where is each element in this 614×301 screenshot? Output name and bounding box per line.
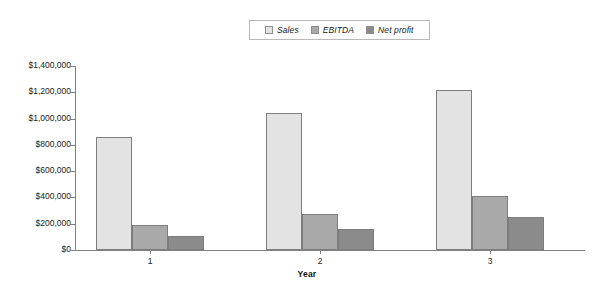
bar-chart: SalesEBITDANet profit $0$200,000$400,000… bbox=[0, 0, 614, 301]
x-tick-label: 2 bbox=[318, 256, 323, 266]
legend-item[interactable]: Sales bbox=[265, 25, 299, 35]
legend-item[interactable]: EBITDA bbox=[311, 25, 354, 35]
x-tick-label: 3 bbox=[488, 256, 493, 266]
y-tick-label: $200,000 bbox=[36, 218, 71, 228]
y-tick-label: $0 bbox=[62, 244, 71, 254]
bar[interactable] bbox=[436, 90, 472, 250]
x-tick-mark bbox=[150, 250, 151, 254]
y-tick-label: $1,200,000 bbox=[28, 86, 71, 96]
bar[interactable] bbox=[168, 236, 204, 250]
legend-label: EBITDA bbox=[323, 25, 354, 35]
x-tick-label: 1 bbox=[148, 256, 153, 266]
y-tick-label: $400,000 bbox=[36, 191, 71, 201]
bar-group bbox=[266, 66, 374, 250]
y-tick-label: $1,400,000 bbox=[28, 60, 71, 70]
x-axis-line bbox=[75, 250, 585, 251]
x-axis-title: Year bbox=[0, 269, 614, 279]
legend-label: Sales bbox=[277, 25, 299, 35]
x-tick-mark bbox=[490, 250, 491, 254]
plot-area bbox=[75, 66, 585, 250]
bar-group bbox=[96, 66, 204, 250]
bar[interactable] bbox=[302, 214, 338, 250]
legend-swatch-icon bbox=[311, 26, 319, 34]
chart-legend: SalesEBITDANet profit bbox=[249, 20, 430, 40]
y-tick-label: $600,000 bbox=[36, 165, 71, 175]
legend-item[interactable]: Net profit bbox=[366, 25, 414, 35]
legend-swatch-icon bbox=[265, 26, 273, 34]
bar-group bbox=[436, 66, 544, 250]
bar[interactable] bbox=[508, 217, 544, 251]
x-tick-mark bbox=[320, 250, 321, 254]
y-tick-label: $1,000,000 bbox=[28, 113, 71, 123]
y-tick-label: $800,000 bbox=[36, 139, 71, 149]
bar[interactable] bbox=[266, 113, 302, 250]
bar[interactable] bbox=[338, 229, 374, 250]
bar[interactable] bbox=[96, 137, 132, 250]
legend-swatch-icon bbox=[366, 26, 374, 34]
legend-label: Net profit bbox=[378, 25, 414, 35]
bar[interactable] bbox=[132, 225, 168, 250]
bar[interactable] bbox=[472, 196, 508, 250]
